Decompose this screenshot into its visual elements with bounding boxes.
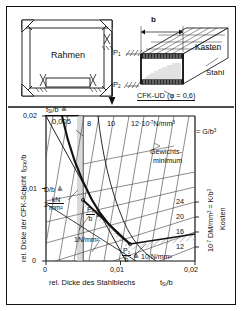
p2-value: ≙ 10 N/mm²: [133, 253, 172, 260]
box-girder-sketch: [124, 26, 228, 96]
frame-sketch: [22, 20, 115, 105]
load-p2-subscript: 2: [118, 84, 121, 89]
gb3-exponent: 3: [214, 128, 216, 133]
weight-axis-symbol: = G/b3: [196, 128, 216, 135]
frame-label: Rahmen: [51, 50, 85, 60]
box-label: Kasten: [195, 42, 221, 52]
tst-header-rest: /b ≙: [52, 105, 66, 114]
ytick-0: 0: [32, 257, 36, 264]
p2-denominator: b: [122, 256, 131, 263]
p2-subscript: 2: [128, 250, 130, 255]
gb3-text: = G/b: [196, 127, 214, 136]
right-unit-b-exponent: 3: [207, 210, 212, 212]
weight-label-12-unit: 12·10-7N/mm3: [131, 120, 175, 127]
p1-fraction: P1 b: [86, 206, 95, 223]
load-p1-subscript: 1: [118, 52, 121, 57]
weight-12-unit: N/mm: [153, 119, 172, 128]
p1-value-label: 1N/mm²: [74, 236, 99, 243]
x-axis-title-text: rel. Dicke des Stahlblechs: [49, 278, 135, 287]
y-axis-title-text: rel. Dicke der CFK-Schicht: [19, 176, 28, 262]
stiffness-numerator: kN: [48, 196, 64, 204]
tst-header-underline: [45, 115, 79, 116]
load-p2-label: P2: [113, 81, 121, 90]
weight-12-unit-exponent: 3: [173, 120, 175, 125]
tst-over-b-header: tSt/b ≙: [46, 106, 67, 115]
weight-12-value: 12·10: [131, 119, 149, 128]
stiffness-fraction: kNmm²: [48, 196, 64, 211]
right-axis-unit-label: 10-7 DM/mm3 = K/b3: [207, 189, 214, 252]
cfk-ud-caption: CFK-UD (φ = 0,6): [137, 92, 195, 101]
gewichtsminimum-line2: minimum: [153, 157, 182, 164]
x-axis-title: rel. Dicke des Stahlblechs: [49, 279, 135, 287]
stiffness-label-value: 2kNmm²: [44, 196, 64, 211]
load-p1-chart-label: P1 b ≙: [86, 206, 102, 223]
y-axis-title: rel. Dicke der CFK-Schicht tCFK/b: [20, 155, 29, 262]
xtick-0: 0: [43, 266, 47, 273]
right-unit-b: DM/mm: [206, 213, 215, 240]
xtick-001: 0,01: [110, 266, 124, 273]
load-p1-label: P1: [113, 49, 121, 58]
right-tick-24: 24: [176, 198, 184, 205]
right-tick-12: 12: [176, 243, 184, 250]
weight-label-8: 8: [87, 120, 91, 127]
p1-denominator: b: [86, 215, 95, 222]
dimension-b-label: b: [151, 16, 156, 24]
top-diagram-panel: Rahmen: [6, 6, 236, 106]
p1-equals: ≙: [96, 212, 102, 219]
figure-page: Rahmen: [0, 0, 242, 311]
x-axis-symbol-sub: St: [162, 282, 166, 287]
p1-numerator: P1: [86, 206, 95, 215]
strength-curve-p2: [98, 116, 156, 261]
load-p2-chart-label: P2 b ≙ 10 N/mm²: [122, 247, 172, 264]
p2-numerator: P2: [122, 247, 131, 256]
right-unit-c-exponent: 3: [207, 189, 212, 191]
right-tick-20: 20: [176, 213, 184, 220]
stiffness-label-top: D/b ≙: [44, 186, 63, 193]
right-unit-c: = K/b: [206, 191, 215, 210]
xtick-002: 0,02: [184, 266, 198, 273]
x-axis-symbol: tSt/b: [160, 279, 173, 288]
tst-value-label: 0,005: [52, 118, 71, 126]
p1-subscript: 1: [92, 209, 94, 214]
p2-fraction: P2 b: [122, 247, 131, 264]
steel-label: Stahl: [206, 68, 224, 77]
weight-label-10: 10: [107, 120, 115, 127]
right-tick-16: 16: [176, 228, 184, 235]
right-unit-a-exponent: -7: [207, 240, 212, 244]
stiffness-denominator: mm²: [48, 204, 64, 211]
y-axis-symbol-sub: CFK: [23, 161, 28, 170]
ytick-002: 0,02: [23, 112, 37, 119]
right-axis-kosten-label: Kosten: [219, 208, 226, 230]
right-unit-a: 10: [206, 244, 215, 252]
